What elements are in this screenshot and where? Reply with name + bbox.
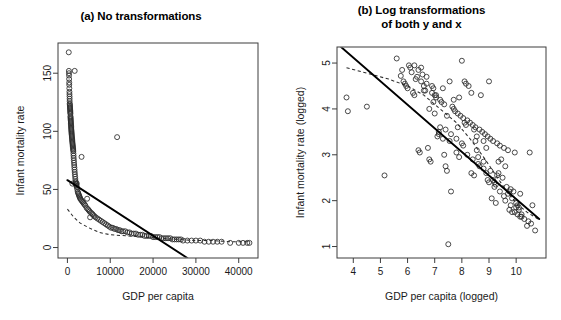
x-tick-label: 5 <box>378 266 384 277</box>
data-point <box>449 189 454 194</box>
data-point <box>115 135 120 140</box>
data-point <box>438 125 443 130</box>
data-point <box>398 73 403 78</box>
data-point <box>459 58 464 63</box>
x-tick-label: 40000 <box>225 266 253 277</box>
plot-frame <box>58 43 258 258</box>
y-tick-label: 3 <box>322 152 333 158</box>
y-axis-label: Infant mortality rate (logged) <box>294 87 306 218</box>
data-point <box>79 154 84 159</box>
data-point <box>500 175 505 180</box>
data-point <box>457 155 462 160</box>
data-point <box>503 164 508 169</box>
panel-b-plot: 4567891012345GDP per capita (logged)Infa… <box>282 0 561 320</box>
y-tick-label: 5 <box>322 60 333 66</box>
y-tick-label: 4 <box>322 106 333 112</box>
data-point <box>446 242 451 247</box>
data-point <box>382 173 387 178</box>
data-point <box>419 79 424 84</box>
x-tick-label: 0 <box>65 266 71 277</box>
data-point <box>443 127 448 132</box>
data-point <box>66 50 71 55</box>
data-point <box>489 196 494 201</box>
data-point <box>484 145 489 150</box>
data-point <box>442 152 447 157</box>
panel-b-log-transformations: (b) Log transformations of both y and x … <box>282 0 561 320</box>
data-point <box>409 70 414 75</box>
data-point <box>400 67 405 72</box>
data-point <box>487 79 492 84</box>
data-point <box>497 189 502 194</box>
data-point <box>474 134 479 139</box>
data-point <box>432 111 437 116</box>
data-point <box>488 168 493 173</box>
data-point <box>518 191 523 196</box>
linear-regression-line <box>341 47 539 219</box>
data-point <box>527 150 532 155</box>
data-point <box>451 97 456 102</box>
linear-regression-line <box>67 180 187 258</box>
x-tick-label: 30000 <box>182 266 210 277</box>
y-tick-label: 0 <box>43 244 54 250</box>
y-tick-label: 150 <box>43 64 54 81</box>
data-point <box>501 194 506 199</box>
data-point <box>72 68 77 73</box>
x-tick-label: 8 <box>459 266 465 277</box>
data-point <box>344 95 349 100</box>
data-point <box>508 203 513 208</box>
data-point <box>444 168 449 173</box>
data-point <box>469 90 474 95</box>
data-point <box>424 74 429 79</box>
data-point <box>506 148 511 153</box>
data-point <box>481 139 486 144</box>
x-tick-label: 4 <box>351 266 357 277</box>
y-tick-label: 2 <box>322 197 333 203</box>
data-point <box>493 200 498 205</box>
scatter-points <box>66 50 252 246</box>
panel-a-no-transformations: (a) No transformations 01000020000300004… <box>0 0 282 320</box>
data-point <box>454 136 459 141</box>
data-point <box>394 56 399 61</box>
data-point <box>455 125 460 130</box>
data-point <box>530 203 535 208</box>
data-point <box>425 145 430 150</box>
data-point <box>457 95 462 100</box>
x-tick-label: 10 <box>511 266 523 277</box>
y-tick-label: 1 <box>322 243 333 249</box>
data-point <box>478 93 483 98</box>
panel-a-plot: 010000200003000040000050100150GDP per ca… <box>0 0 282 320</box>
y-tick-label: 50 <box>43 183 54 195</box>
data-point <box>476 155 481 160</box>
data-point <box>512 150 517 155</box>
data-point <box>440 86 445 91</box>
x-tick-label: 9 <box>486 266 492 277</box>
data-point <box>85 196 90 201</box>
data-point <box>412 63 417 68</box>
data-point <box>427 106 432 111</box>
y-tick-label: 100 <box>43 123 54 140</box>
x-axis-label: GDP per capita (logged) <box>385 290 498 302</box>
x-tick-label: 10000 <box>96 266 124 277</box>
scatter-points <box>344 56 538 247</box>
data-point <box>481 159 486 164</box>
data-point <box>447 79 452 84</box>
y-axis-label: Infant mortality rate <box>14 105 26 195</box>
x-tick-label: 20000 <box>139 266 167 277</box>
figure-panel-container: (a) No transformations 01000020000300004… <box>0 0 561 320</box>
data-point <box>454 150 459 155</box>
x-tick-label: 7 <box>432 266 438 277</box>
plot-frame <box>337 47 546 258</box>
x-axis-label: GDP per capita <box>122 290 194 302</box>
data-point <box>364 104 369 109</box>
x-tick-label: 6 <box>405 266 411 277</box>
data-point <box>345 109 350 114</box>
data-point <box>449 132 454 137</box>
data-point <box>533 228 538 233</box>
